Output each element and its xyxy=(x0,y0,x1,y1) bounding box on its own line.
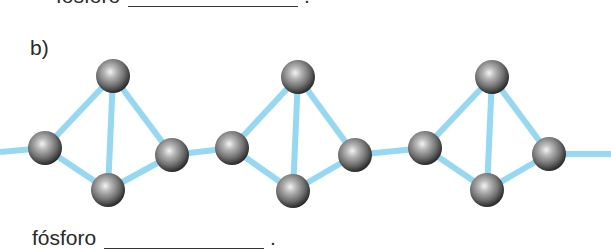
phosphorus-atom xyxy=(28,131,62,165)
bottom-caption: fósforo . xyxy=(32,227,276,249)
bond xyxy=(108,76,113,190)
phosphorus-atom xyxy=(91,173,125,207)
phosphorus-atom xyxy=(281,60,315,94)
phosphorus-atom xyxy=(470,173,504,207)
phosphorus-atom xyxy=(155,138,189,172)
phosphorus-atom xyxy=(96,59,130,93)
bottom-answer-blank[interactable] xyxy=(104,227,264,249)
bond xyxy=(293,77,298,191)
phosphorus-atom xyxy=(276,174,310,208)
phosphorus-atom xyxy=(215,131,249,165)
phosphorus-atom xyxy=(532,137,566,171)
phosphorus-atom xyxy=(408,131,442,165)
bottom-caption-period: . xyxy=(270,226,276,249)
phosphorus-chain-diagram xyxy=(0,0,611,252)
phosphorus-atom xyxy=(475,60,509,94)
bottom-caption-label: fósforo xyxy=(32,226,96,249)
phosphorus-atom xyxy=(338,138,372,172)
bonds xyxy=(0,76,611,191)
